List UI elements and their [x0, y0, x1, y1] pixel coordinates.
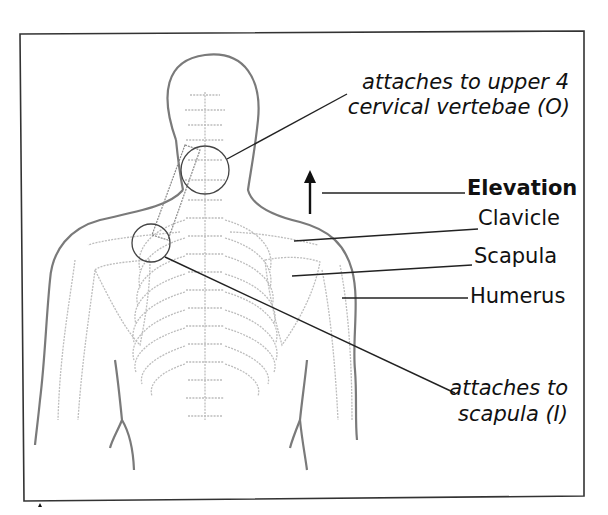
origin-label-line2: cervical vertebae (O): [348, 95, 570, 119]
elevation-label: Elevation: [467, 176, 577, 200]
scapula-label: Scapula: [474, 244, 557, 268]
leader-lines: [165, 94, 478, 393]
skeleton: [58, 92, 352, 420]
body-outline: [35, 54, 357, 470]
origin-label-line1: attaches to upper 4: [362, 70, 569, 94]
insertion-label-line2: scapula (I): [458, 402, 568, 426]
humerus-label: Humerus: [470, 284, 565, 308]
spine: [185, 92, 225, 420]
page-mark: [38, 503, 42, 507]
diagram: attaches to upper 4 cervical vertebae (O…: [0, 0, 608, 515]
clavicle-label: Clavicle: [478, 206, 560, 230]
insertion-label-line1: attaches to: [449, 376, 568, 400]
elevation-arrow-icon: [304, 170, 316, 214]
